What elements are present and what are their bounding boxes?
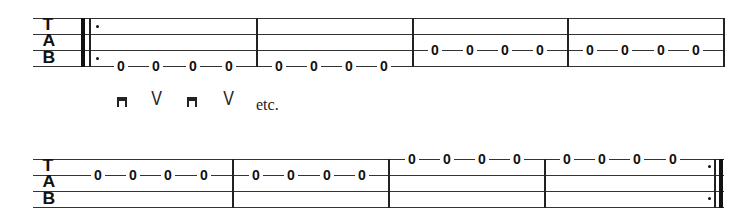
- tab-note: 0: [222, 59, 236, 73]
- upstroke-icon: V: [223, 88, 234, 108]
- upstroke-icon: V: [151, 88, 162, 108]
- barline: [388, 159, 390, 208]
- repeat-dot: [708, 165, 711, 168]
- barline: [544, 159, 546, 208]
- tab-note: 0: [630, 152, 644, 166]
- tab-note: 0: [126, 168, 140, 182]
- tab-note: 0: [186, 59, 200, 73]
- tab-note: 0: [510, 152, 524, 166]
- tab-note: 0: [197, 168, 211, 182]
- tab-note: 0: [342, 59, 356, 73]
- string-line-1: [33, 159, 724, 160]
- tab-system-2: T A B 0 0 0 0 0 0 0 0 0 0 0 0 0 0 0 0: [0, 0, 756, 60]
- tab-note: 0: [475, 152, 489, 166]
- downstroke-icon: [187, 97, 197, 107]
- tab-note: 0: [114, 59, 128, 73]
- string-line-3: [33, 191, 724, 192]
- tab-note: 0: [272, 59, 286, 73]
- tab-note: 0: [355, 168, 369, 182]
- string-line-4: [33, 207, 724, 208]
- tab-clef-a: A: [42, 174, 55, 190]
- tab-clef-b: B: [42, 191, 55, 207]
- end-repeat-thick-bar: [719, 159, 723, 208]
- repeat-dot: [708, 197, 711, 200]
- tab-note: 0: [440, 152, 454, 166]
- end-repeat-thin-bar: [714, 159, 716, 208]
- tab-note: 0: [91, 168, 105, 182]
- tab-note: 0: [149, 59, 163, 73]
- tab-note: 0: [307, 59, 321, 73]
- tab-note: 0: [377, 59, 391, 73]
- tab-note: 0: [161, 168, 175, 182]
- tab-note: 0: [405, 152, 419, 166]
- tab-note: 0: [560, 152, 574, 166]
- tab-note: 0: [284, 168, 298, 182]
- downstroke-icon: [117, 97, 127, 107]
- tab-note: 0: [320, 168, 334, 182]
- tab-clef-t: T: [43, 158, 54, 174]
- tab-note: 0: [666, 152, 680, 166]
- barline: [232, 159, 234, 208]
- tab-note: 0: [595, 152, 609, 166]
- tab-note: 0: [249, 168, 263, 182]
- etc-label: etc.: [256, 96, 279, 114]
